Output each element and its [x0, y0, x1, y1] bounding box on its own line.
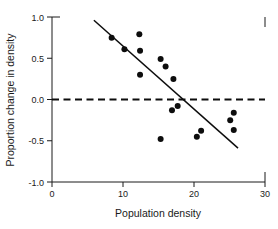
y-axis-ticks: [47, 17, 52, 182]
data-point: [169, 107, 175, 113]
y-axis-label: Proportion change in density: [4, 33, 16, 167]
y-ticklabel--1.0: -1.0: [28, 178, 44, 188]
regression-fit-line: [94, 20, 238, 148]
data-point: [109, 35, 115, 41]
data-point: [194, 134, 200, 140]
data-point: [170, 76, 176, 82]
data-point: [231, 110, 237, 116]
data-point: [163, 64, 169, 70]
data-point: [231, 127, 237, 133]
data-point: [198, 128, 204, 134]
plot-canvas: 1.0 0.5 0.0 -0.5 -1.0 0 10 20 30 Populat…: [0, 0, 278, 229]
data-point: [121, 46, 127, 52]
y-ticklabel-1.0: 1.0: [31, 13, 44, 23]
data-point: [227, 117, 233, 123]
y-ticklabel-0.0: 0.0: [31, 95, 44, 105]
data-point: [175, 103, 181, 109]
data-point: [158, 136, 164, 142]
x-ticklabel-30: 30: [260, 189, 270, 199]
data-point: [137, 48, 143, 54]
y-ticklabel--0.5: -0.5: [28, 136, 44, 146]
data-point: [158, 56, 164, 62]
y-ticklabel-0.5: 0.5: [31, 54, 44, 64]
x-axis-label: Population density: [115, 207, 202, 219]
scatter-plot-figure: 1.0 0.5 0.0 -0.5 -1.0 0 10 20 30 Populat…: [0, 0, 278, 229]
data-point: [136, 31, 142, 37]
data-point: [137, 72, 143, 78]
data-points-group: [109, 31, 237, 142]
x-ticklabel-0: 0: [49, 189, 54, 199]
x-ticklabel-20: 20: [189, 189, 199, 199]
x-axis-ticks: [52, 182, 265, 187]
x-ticklabel-10: 10: [118, 189, 128, 199]
